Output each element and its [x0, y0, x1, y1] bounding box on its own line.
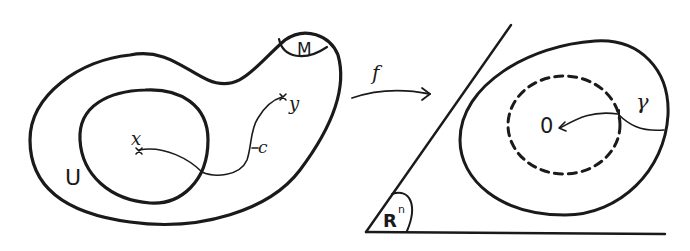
label-x: x	[131, 128, 141, 149]
half-space-boundary-diagonal	[366, 25, 511, 232]
neighborhood-u-outline	[80, 90, 208, 203]
manifold-outline	[30, 33, 341, 224]
label-y: y	[288, 93, 300, 114]
label-f: f	[370, 61, 383, 85]
label-u: U	[65, 165, 81, 190]
map-arrow	[352, 91, 430, 98]
label-r-superscript: n	[398, 203, 405, 216]
curve-gamma	[560, 113, 664, 130]
label-gamma: γ	[636, 90, 649, 114]
half-space-boundary-bottom	[366, 232, 665, 234]
diagram-canvas: M U x y c f R n 0 γ	[0, 0, 690, 251]
label-c: c	[258, 137, 268, 157]
label-m: M	[297, 39, 312, 59]
image-region-outline	[460, 41, 668, 215]
label-r: R	[383, 210, 397, 231]
label-origin: 0	[540, 114, 553, 138]
